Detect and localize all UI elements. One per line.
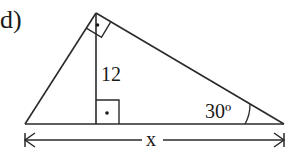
problem-label: d) — [0, 5, 22, 34]
triangle-diagram: d) 12 30º — [0, 0, 288, 155]
angle-arc — [245, 104, 250, 124]
right-leg — [96, 13, 284, 124]
triangle — [25, 13, 284, 124]
base-label: x — [146, 128, 156, 150]
altitude-label: 12 — [101, 63, 121, 85]
angle-label: 30º — [205, 100, 231, 122]
triangle-figure: d) 12 30º — [0, 0, 288, 155]
apex-right-angle-dot — [96, 23, 100, 27]
foot-right-angle-dot — [105, 111, 109, 115]
left-leg — [25, 13, 96, 124]
